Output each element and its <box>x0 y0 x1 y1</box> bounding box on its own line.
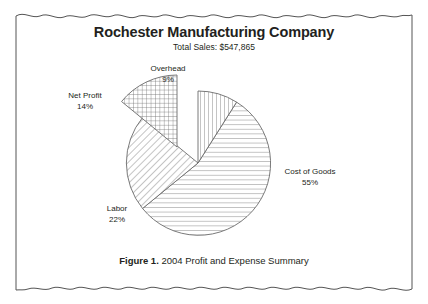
slice-label-net-profit-name: Net Profit <box>68 91 101 100</box>
slice-label-net-profit: Net Profit 14% <box>57 91 113 112</box>
pie-chart: Rochester Manufacturing Company Total Sa… <box>0 0 428 304</box>
slice-label-overhead: Overhead 9% <box>139 64 197 85</box>
slice-label-overhead-name: Overhead <box>150 64 185 73</box>
chart-title: Rochester Manufacturing Company <box>0 24 428 40</box>
slice-label-labor: Labor 22% <box>96 204 138 225</box>
slice-label-labor-name: Labor <box>107 204 127 213</box>
slice-label-net-profit-percent: 14% <box>57 102 113 113</box>
figure-caption-text: 2004 Profit and Expense Summary <box>161 255 308 266</box>
figure-caption: Figure 1. 2004 Profit and Expense Summar… <box>0 255 428 266</box>
slice-label-overhead-percent: 9% <box>139 75 197 86</box>
slice-label-cost-of-goods-name: Cost of Goods <box>284 167 335 176</box>
figure-caption-label: Figure 1. <box>119 255 159 266</box>
slice-label-labor-percent: 22% <box>96 215 138 226</box>
chart-subtitle: Total Sales: $547,865 <box>0 42 428 52</box>
slice-label-cost-of-goods: Cost of Goods 55% <box>278 167 342 188</box>
slice-label-cost-of-goods-percent: 55% <box>278 178 342 189</box>
